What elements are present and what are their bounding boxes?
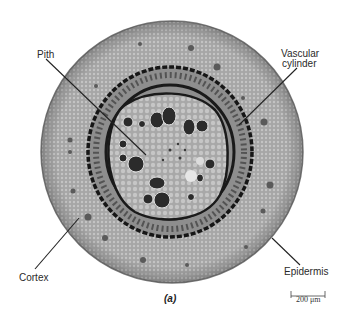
- pith-label: Pith: [37, 49, 54, 60]
- cortex-label: Cortex: [19, 272, 48, 283]
- epidermis-leader-line: [272, 238, 300, 265]
- vascular-cylinder-label-line2: cylinder: [282, 58, 316, 69]
- panel-label: (a): [164, 293, 176, 304]
- scale-bar-text: 200 μm: [296, 295, 321, 304]
- stem-cross-section-figure: Pith Vascular cylinder Cortex Epidermis …: [0, 0, 344, 321]
- cortex-leader-line: [35, 218, 79, 269]
- epidermis-label: Epidermis: [284, 266, 328, 277]
